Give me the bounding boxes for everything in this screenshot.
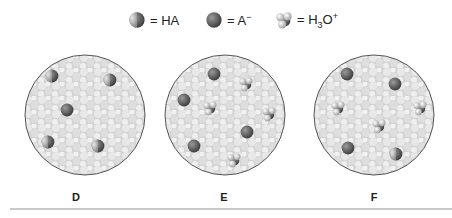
ha-molecule-icon [46,70,59,83]
beaker-e [164,54,286,176]
a-minus-ion-icon [178,94,191,107]
a-minus-ion-icon [208,68,221,81]
a-minus-ion-icon [389,78,402,91]
legend-item-a-minus: = A− [205,9,251,31]
a-minus-ion-icon [241,126,254,139]
ha-molecule-icon [128,11,146,29]
a-minus-ion-icon [205,11,223,29]
divider [10,208,452,210]
a-minus-ion-icon [188,140,201,153]
legend-item-hydronium: = H3O+ [275,9,338,31]
legend-item-ha: = HA [128,9,179,31]
a-minus-ion-icon [342,142,355,155]
beaker-f [313,54,435,176]
a-minus-ion-icon [341,68,354,81]
panel-label-e: E [214,191,234,203]
a-minus-ion-icon [61,104,74,117]
legend: = HA = A− = H3O+ [0,9,452,31]
legend-label-hydronium: = H3O+ [297,11,338,30]
legend-label-a-minus: = A− [227,12,251,28]
panel-label-f: F [364,191,384,203]
panel-label-d: D [66,191,86,203]
legend-label-ha: = HA [150,13,179,28]
beaker-d [24,54,146,176]
ha-molecule-icon [104,74,117,87]
hydronium-ion-icon [275,11,293,29]
ha-molecule-icon [390,148,403,161]
ha-molecule-icon [92,140,105,153]
ha-molecule-icon [42,136,55,149]
